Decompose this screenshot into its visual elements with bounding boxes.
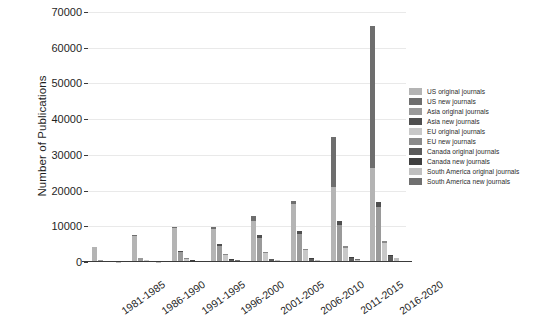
x-tick-label: 1981-1985 — [119, 278, 167, 317]
stacked-bar — [257, 12, 262, 262]
legend-item[interactable]: Asia new journals — [409, 116, 533, 126]
bar-segment — [211, 229, 216, 262]
y-tick-label: 70000 — [51, 6, 82, 18]
stacked-bar — [132, 12, 137, 262]
legend-label: South America new journals — [427, 178, 510, 185]
bar-group — [291, 12, 320, 262]
legend-swatch — [409, 138, 422, 145]
legend-item[interactable]: South America original journals — [409, 167, 533, 177]
y-tick-mark — [84, 191, 88, 192]
legend-item[interactable]: US original journals — [409, 86, 533, 96]
stacked-bar — [144, 12, 149, 262]
stacked-bar — [172, 12, 177, 262]
x-tick-label: 2001-2005 — [278, 278, 326, 317]
bar-segment — [172, 228, 177, 262]
stacked-bar — [217, 12, 222, 262]
bar-segment — [370, 168, 375, 262]
plot-inner: 010000200003000040000500006000070000 — [88, 12, 406, 262]
legend-label: US new journals — [427, 98, 476, 105]
bar-segment — [331, 137, 336, 187]
legend-swatch — [409, 158, 422, 165]
legend-item[interactable]: Asia original journals — [409, 106, 533, 116]
y-tick-label: 30000 — [51, 149, 82, 161]
stacked-bar — [156, 12, 161, 262]
legend-swatch — [409, 128, 422, 135]
legend-label: EU new journals — [427, 138, 476, 145]
stacked-bar — [116, 12, 121, 262]
bar-segment — [370, 26, 375, 167]
legend-label: Canada new journals — [427, 158, 490, 165]
bar-segment — [251, 221, 256, 262]
legend-swatch — [409, 118, 422, 125]
stacked-bar — [110, 12, 115, 262]
bar-group — [370, 12, 399, 262]
stacked-bar — [388, 12, 393, 262]
bar-segment — [376, 207, 381, 262]
y-tick-mark — [84, 262, 88, 263]
legend-swatch — [409, 88, 422, 95]
legend-item[interactable]: EU original journals — [409, 126, 533, 136]
stacked-bar — [104, 12, 109, 262]
stacked-bar — [349, 12, 354, 262]
legend-swatch — [409, 178, 422, 185]
y-tick-mark — [84, 48, 88, 49]
legend-item[interactable]: Canada new journals — [409, 157, 533, 167]
legend-item[interactable]: EU new journals — [409, 136, 533, 146]
y-tick-label: 20000 — [51, 185, 82, 197]
x-tick-label: 1996-2000 — [238, 278, 286, 317]
stacked-bar — [303, 12, 308, 262]
y-tick-label: 50000 — [51, 77, 82, 89]
stacked-bar — [235, 12, 240, 262]
y-tick-mark — [84, 119, 88, 120]
legend-item[interactable]: US new journals — [409, 96, 533, 106]
x-tick-label: 2011-2015 — [357, 278, 404, 316]
stacked-bar — [297, 12, 302, 262]
y-tick-label: 40000 — [51, 113, 82, 125]
plot-area: 010000200003000040000500006000070000 198… — [88, 12, 406, 262]
legend-swatch — [409, 108, 422, 115]
stacked-bar — [376, 12, 381, 262]
x-tick-label: 2016-2020 — [397, 278, 445, 317]
stacked-bar — [211, 12, 216, 262]
x-axis-line — [82, 261, 412, 262]
stacked-bar — [275, 12, 280, 262]
stacked-bar — [291, 12, 296, 262]
stacked-bar — [382, 12, 387, 262]
legend-label: EU original journals — [427, 128, 485, 135]
bar-segment — [297, 234, 302, 262]
y-tick-mark — [84, 12, 88, 13]
stacked-bar — [269, 12, 274, 262]
bar-segment — [331, 187, 336, 262]
bar-segment — [132, 236, 137, 262]
stacked-bar — [309, 12, 314, 262]
chart-figure: Number of Publications 01000020000300004… — [0, 0, 534, 332]
legend-label: South America original journals — [427, 168, 519, 175]
stacked-bar — [98, 12, 103, 262]
legend-swatch — [409, 148, 422, 155]
bar-group — [92, 12, 121, 262]
y-axis-title: Number of Publications — [36, 16, 48, 256]
bar-group — [251, 12, 280, 262]
bar-segment — [257, 238, 262, 262]
y-tick-label: 10000 — [51, 220, 82, 232]
bar-group — [172, 12, 201, 262]
bar-group — [331, 12, 360, 262]
stacked-bar — [331, 12, 336, 262]
stacked-bar — [196, 12, 201, 262]
stacked-bar — [370, 12, 375, 262]
stacked-bar — [394, 12, 399, 262]
x-tick-label: 1986-1990 — [159, 278, 207, 317]
bar-group — [211, 12, 240, 262]
x-tick-label: 2006-2010 — [318, 278, 366, 317]
bar-segment — [382, 243, 387, 262]
stacked-bar — [343, 12, 348, 262]
stacked-bar — [355, 12, 360, 262]
bar-group — [132, 12, 161, 262]
stacked-bar — [337, 12, 342, 262]
legend-label: Asia new journals — [427, 118, 480, 125]
y-tick-mark — [84, 83, 88, 84]
legend-item[interactable]: South America new journals — [409, 177, 533, 187]
bar-segment — [291, 204, 296, 262]
legend-item[interactable]: Canada original journals — [409, 147, 533, 157]
legend-label: Asia original journals — [427, 108, 489, 115]
